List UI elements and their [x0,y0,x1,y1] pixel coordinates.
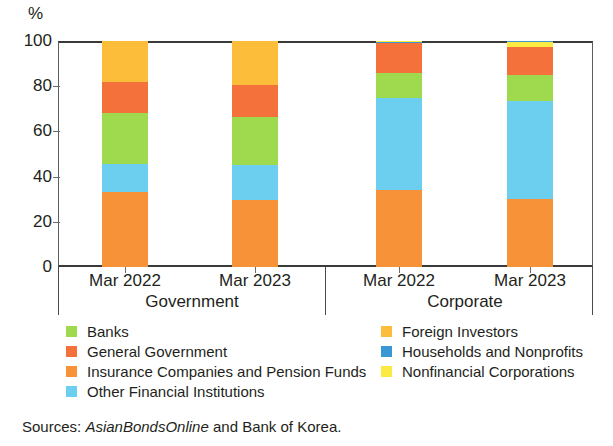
y-tick-label-80: 80 [33,76,52,96]
y-tick-label-100: 100 [24,31,52,51]
x-tick-label-0: Mar 2022 [89,271,161,291]
legend-column-left: BanksGeneral GovernmentInsurance Compani… [66,322,366,402]
legend-swatch-icon [66,326,77,337]
x-axis-right-edge [592,267,593,315]
legend-item-households-and-nonprofits[interactable]: Households and Nonprofits [381,342,583,361]
legend-label: Nonfinancial Corporations [402,364,575,379]
plot-area [58,41,593,267]
y-tick-mark-60 [53,131,60,132]
y-tick-mark-40 [53,177,60,178]
legend-label: Foreign Investors [402,324,518,339]
y-tick-label-40: 40 [33,167,52,187]
legend-label: Banks [87,324,129,339]
legend-swatch-icon [66,386,77,397]
legend-label: Other Financial Institutions [87,384,265,399]
legend-item-banks[interactable]: Banks [66,322,366,341]
x-tick-label-2: Mar 2022 [363,271,435,291]
legend-swatch-icon [66,366,77,377]
y-tick-mark-20 [53,222,60,223]
legend-item-foreign-investors[interactable]: Foreign Investors [381,322,583,341]
x-group-label-government: Government [145,292,239,312]
chart-figure: % 100806040200 Mar 2022Mar 2023Mar 2022M… [0,0,613,446]
source-suffix: and Bank of Korea. [209,418,342,435]
legend-swatch-icon [381,366,392,377]
legend-label: Insurance Companies and Pension Funds [87,364,366,379]
legend-item-nonfinancial-corporations[interactable]: Nonfinancial Corporations [381,362,583,381]
y-tick-label-0: 0 [43,257,52,277]
legend-column-right: Foreign InvestorsHouseholds and Nonprofi… [381,322,583,382]
legend-swatch-icon [381,326,392,337]
x-group-label-corporate: Corporate [427,292,503,312]
source-prefix: Sources: [22,418,85,435]
y-tick-label-60: 60 [33,121,52,141]
x-tick-label-3: Mar 2023 [494,271,566,291]
x-tick-label-1: Mar 2023 [219,271,291,291]
legend-swatch-icon [66,346,77,357]
legend-swatch-icon [381,346,392,357]
legend-item-general-government[interactable]: General Government [66,342,366,361]
legend-item-insurance-companies-and-pension-funds[interactable]: Insurance Companies and Pension Funds [66,362,366,381]
legend-label: General Government [87,344,227,359]
y-tick-mark-80 [53,86,60,87]
source-italic-name: AsianBondsOnline [85,418,208,435]
source-note: Sources: AsianBondsOnline and Bank of Ko… [22,418,341,435]
legend-item-other-financial-institutions[interactable]: Other Financial Institutions [66,382,366,401]
y-tick-label-20: 20 [33,212,52,232]
x-axis-group-divider [325,267,326,315]
x-axis-left-edge [58,267,59,315]
legend-label: Households and Nonprofits [402,344,583,359]
y-axis-unit-label: % [28,4,43,24]
y-axis-tick-labels: 100806040200 [0,41,52,267]
chart-legend: BanksGeneral GovernmentInsurance Compani… [0,322,613,402]
